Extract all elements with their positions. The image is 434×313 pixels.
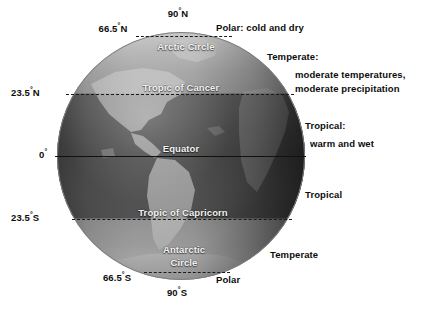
climate-temperate-north-detail-line1: moderate temperatures,	[295, 69, 405, 80]
hemisphere-235n: N	[33, 87, 40, 98]
latitude-value-665n: 66.5	[99, 23, 118, 34]
degree-symbol: °	[44, 148, 47, 155]
latitude-label-90s: 90°S	[167, 287, 187, 298]
tropic-of-capricorn-line	[72, 219, 292, 220]
arctic-circle-label: Arctic Circle	[157, 41, 214, 52]
antarctic-circle-label-line1: Antarctic	[163, 244, 205, 255]
climate-zones-diagram: 90°N 66.5°N 23.5°N 0° 23.5°S 66.5°S 90°S…	[0, 0, 434, 313]
tropic-of-capricorn-label: Tropic of Capricorn	[138, 207, 228, 218]
latitude-value-665s: 66.5	[103, 272, 122, 283]
latitude-label-665n: 66.5°N	[99, 23, 128, 34]
climate-tropical-south-label: Tropical	[305, 189, 342, 200]
antarctic-circle-label-line2: Circle	[170, 257, 197, 268]
climate-tropical-title: Tropical:	[305, 120, 346, 131]
climate-tropical-detail: warm and wet	[310, 138, 374, 149]
climate-temperate-north-title: Temperate:	[267, 51, 319, 62]
latitude-value-90s: 90	[167, 287, 178, 298]
climate-polar-north-label: Polar: cold and dry	[216, 22, 304, 33]
tropic-of-cancer-label: Tropic of Cancer	[143, 82, 220, 93]
latitude-label-235s: 23.5°S	[11, 212, 39, 223]
latitude-label-90n: 90°N	[168, 8, 189, 19]
latitude-label-0: 0°	[39, 149, 47, 160]
hemisphere-90s: S	[181, 287, 187, 298]
latitude-label-235n: 23.5°N	[11, 87, 40, 98]
hemisphere-90n: N	[181, 8, 188, 19]
hemisphere-665n: N	[120, 23, 127, 34]
latitude-value-90n: 90	[168, 8, 179, 19]
hemisphere-235s: S	[33, 212, 39, 223]
latitude-value-235s: 23.5	[11, 212, 30, 223]
climate-polar-south-label: Polar	[216, 274, 240, 285]
equator-label: Equator	[163, 143, 200, 154]
antarctic-circle-line	[144, 272, 230, 273]
climate-temperate-south-label: Temperate	[270, 249, 318, 260]
arctic-circle-line	[136, 36, 232, 37]
hemisphere-665s: S	[125, 272, 131, 283]
tropic-of-cancer-line	[66, 94, 294, 95]
climate-temperate-north-detail-line2: moderate precipitation	[295, 83, 400, 94]
latitude-label-665s: 66.5°S	[103, 272, 131, 283]
latitude-value-235n: 23.5	[11, 87, 30, 98]
equator-line	[55, 156, 306, 157]
